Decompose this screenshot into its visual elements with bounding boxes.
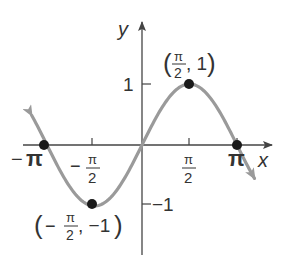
tick-label-y-neg-1: −1	[152, 194, 174, 215]
svg-text:2: 2	[88, 169, 96, 186]
y-axis-label: y	[116, 18, 129, 40]
svg-text:π: π	[26, 146, 43, 171]
svg-text:π: π	[66, 210, 75, 225]
annotation-max-point: ( π 2 , 1 )	[163, 48, 216, 81]
point-max	[184, 79, 194, 89]
tick-label-y-1: 1	[123, 74, 134, 95]
tick-label-pi: π	[228, 146, 245, 171]
svg-text:−: −	[11, 148, 23, 170]
svg-text:−: −	[45, 216, 56, 236]
svg-text:(: (	[163, 48, 172, 78]
svg-text:−: −	[70, 156, 81, 176]
svg-text:π: π	[174, 49, 183, 64]
svg-text:, 1: , 1	[186, 53, 207, 74]
svg-text:π: π	[88, 152, 97, 167]
svg-text:(: (	[34, 210, 43, 240]
sine-graph: y x − π − π 2 π 2 π 1 −1 ( π 2 , 1 ) ( −…	[0, 0, 286, 263]
tick-label-neg-half-pi: − π 2	[70, 152, 100, 186]
svg-text:2: 2	[184, 169, 192, 186]
point-min	[87, 199, 97, 209]
tick-label-half-pi: π 2	[182, 152, 196, 186]
annotation-min-point: ( − π 2 , −1 )	[34, 210, 123, 243]
x-axis-label: x	[257, 149, 269, 171]
svg-text:π: π	[184, 152, 193, 167]
svg-text:2: 2	[174, 65, 182, 81]
svg-text:): )	[114, 210, 123, 240]
tick-label-neg-pi: − π	[11, 146, 43, 171]
svg-text:): )	[207, 48, 216, 78]
svg-text:2: 2	[66, 227, 74, 243]
svg-text:, −1: , −1	[78, 215, 110, 236]
svg-text:π: π	[228, 146, 245, 171]
